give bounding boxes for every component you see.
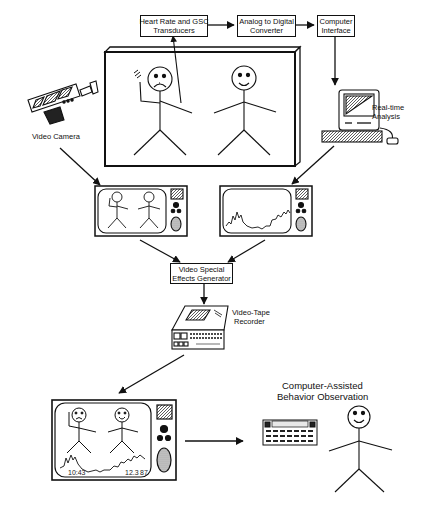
video-tape-recorder-icon (172, 306, 228, 349)
vtr-label-2: Recorder (234, 317, 265, 326)
vtr-label-1: Video-Tape (232, 308, 270, 317)
adc-label-1: Analog to Digital (239, 17, 294, 26)
diagram-canvas (0, 0, 428, 509)
effects-label-1: Video Special (179, 265, 225, 274)
camera-to-monitor-arrow (60, 148, 100, 185)
video-effects-generator-box: Video Special Effects Generator (170, 263, 233, 284)
composite-video-monitor (52, 400, 176, 480)
handheld-event-recorder-icon (263, 420, 317, 445)
video-camera-label: Video Camera (32, 132, 80, 141)
adc-label-2: Converter (250, 26, 283, 35)
monitor-value-1: 12.3 (125, 469, 139, 476)
transducers-label-1: Heart Rate and GSC (139, 17, 208, 26)
cabo-title-line-2: Behavior Observation (277, 391, 368, 402)
video-camera-icon (28, 81, 98, 124)
left-monitor-to-effects-arrow (140, 240, 180, 262)
realtime-label-1: Real-time (372, 103, 404, 112)
cabo-title-line-1: Computer-Assisted (282, 380, 363, 391)
video-monitor-left (95, 186, 187, 236)
analog-digital-converter-box: Analog to Digital Converter (237, 15, 296, 37)
transducers-box: Heart Rate and GSC Transducers (140, 15, 208, 37)
vtr-to-final-monitor-arrow (119, 355, 184, 393)
computer-interface-box: Computer Interface (317, 15, 355, 37)
right-monitor-to-effects-arrow (228, 240, 265, 262)
effects-label-2: Effects Generator (172, 274, 231, 283)
observer-stick-figure (329, 406, 392, 492)
video-monitor-right (220, 186, 312, 236)
interface-label-1: Computer (320, 17, 353, 26)
monitor-time-readout: 10:43 (68, 469, 86, 476)
interface-label-2: Interface (321, 26, 350, 35)
video-recording-diagram: Heart Rate and GSC Transducers Analog to… (0, 0, 428, 509)
observation-scene-panel (105, 36, 300, 166)
monitor-value-2: 87 (140, 469, 148, 476)
transducers-label-2: Transducers (153, 26, 194, 35)
realtime-label-2: Analysis (372, 112, 400, 121)
